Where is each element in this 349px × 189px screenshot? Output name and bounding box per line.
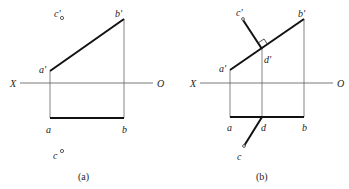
label-b: b <box>122 124 127 135</box>
label-c: c <box>53 150 58 161</box>
label-c-prime: c′ <box>54 8 61 19</box>
projection-diagram: X O a′ b′ c′ a b c (a) X O <box>0 0 349 189</box>
point-c-prime <box>60 16 63 19</box>
label-d-prime: d′ <box>264 54 272 65</box>
label-b-prime-b: b′ <box>298 8 306 19</box>
caption-a: (a) <box>78 171 89 183</box>
axis-x-label-a: X <box>9 78 17 89</box>
line-a-prime-b-prime <box>50 19 124 71</box>
label-a-prime: a′ <box>39 64 47 75</box>
line-cd <box>244 117 262 146</box>
point-c-b <box>243 145 246 148</box>
caption-b: (b) <box>256 171 268 183</box>
point-c-prime-b <box>242 18 245 21</box>
panel-a: X O a′ b′ c′ a b c (a) <box>9 8 164 183</box>
axis-o-label-a: O <box>157 78 164 89</box>
label-b-b: b <box>302 122 307 133</box>
line-c-prime-d-prime <box>243 20 262 49</box>
label-a-b: a <box>227 122 232 133</box>
axis-o-label-b: O <box>337 78 344 89</box>
point-c <box>60 149 63 152</box>
axis-x-label-b: X <box>189 78 197 89</box>
label-a-prime-b: a′ <box>219 63 227 74</box>
label-a: a <box>46 124 51 135</box>
label-b-prime: b′ <box>115 8 123 19</box>
label-d: d <box>261 122 267 133</box>
label-c-prime-b: c′ <box>236 7 243 18</box>
label-c-b: c <box>237 151 242 162</box>
panel-b: X O a′ b′ c′ d′ a d b <box>189 7 344 183</box>
